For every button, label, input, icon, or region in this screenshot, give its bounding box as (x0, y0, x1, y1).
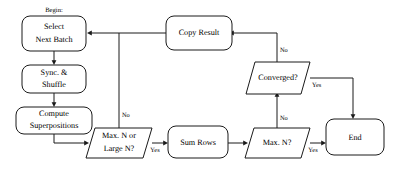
node-label-max-n: Max. N? (263, 138, 292, 147)
node-max-n[interactable]: Max. N? (245, 128, 310, 158)
edge-sumrows-to-maxn (228, 141, 248, 146)
node-label-compute-superpositions-line2: Superpositions (30, 121, 79, 130)
edge-maxn-large-no: No (119, 33, 130, 128)
begin-caption: Begin: (45, 7, 63, 14)
node-label-end: End (348, 133, 361, 142)
node-label-select-next-batch-line1: Select (44, 22, 65, 31)
edge-label-maxn-no: No (280, 115, 288, 122)
node-label-compute-superpositions-line1: Compute (39, 109, 69, 118)
node-select-next-batch[interactable]: Select Next Batch (22, 16, 86, 51)
edge-maxn-yes: Yes (308, 141, 326, 155)
node-label-max-n-or-large-n-line1: Max. N or (102, 131, 136, 140)
flowchart-canvas: up to top rail --> No Sum Rows --> Yes u… (0, 0, 395, 169)
node-converged[interactable]: Converged? (246, 62, 310, 94)
edge-copyresult-to-select (87, 31, 166, 36)
edge-label-converged-no: No (280, 47, 288, 54)
edge-compute-to-maxn-large (54, 134, 89, 145)
node-label-copy-result: Copy Result (179, 28, 220, 37)
edge-label-maxn-large-yes: Yes (150, 147, 160, 154)
node-label-sum-rows: Sum Rows (180, 138, 216, 147)
node-max-n-or-large-n[interactable]: Max. N or Large N? (86, 128, 152, 158)
node-label-select-next-batch-line2: Next Batch (35, 35, 72, 44)
edge-converged-yes: Yes (310, 78, 355, 119)
node-sum-rows[interactable]: Sum Rows (168, 126, 228, 158)
edge-maxn-large-yes: Yes (150, 141, 168, 155)
node-end[interactable]: End (326, 119, 384, 155)
node-compute-superpositions[interactable]: Compute Superpositions (16, 107, 92, 134)
node-label-max-n-or-large-n-line2: Large N? (104, 144, 135, 153)
node-copy-result[interactable]: Copy Result (166, 16, 232, 50)
edge-select-to-sync (52, 51, 57, 65)
edge-converged-no: No (229, 31, 288, 62)
edge-label-converged-yes: Yes (312, 82, 322, 89)
node-label-converged: Converged? (258, 73, 298, 82)
node-label-sync-shuffle-line2: Shuffle (42, 80, 66, 89)
edge-label-maxn-yes: Yes (308, 147, 318, 154)
node-label-sync-shuffle-line1: Sync. & (41, 68, 68, 77)
edge-maxn-no: No (275, 92, 288, 128)
edge-sync-to-compute (52, 93, 57, 107)
edge-label-maxn-large-no: No (122, 112, 130, 119)
flowchart-svg: up to top rail --> No Sum Rows --> Yes u… (0, 0, 395, 169)
node-sync-shuffle[interactable]: Sync. & Shuffle (22, 65, 86, 93)
